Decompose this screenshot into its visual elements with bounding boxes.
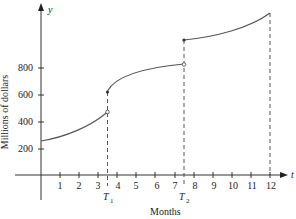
y-axis-title: Millions of dollars xyxy=(0,75,10,150)
x-tick-label: 4 xyxy=(116,180,121,191)
curve-segment-3 xyxy=(184,13,270,40)
x-tick-labels: 1 2 3 4 5 6 7 8 9 10 11 12 xyxy=(58,180,277,191)
chart-svg: y t 200 400 600 800 Millions of dollars xyxy=(0,0,296,219)
y-ticks: 200 400 600 800 xyxy=(18,62,44,154)
x-tick-label: 7 xyxy=(173,180,178,191)
T2-subscript: 2 xyxy=(186,197,190,205)
x-axis-title: Months xyxy=(150,206,181,217)
chart: y t 200 400 600 800 Millions of dollars xyxy=(0,0,296,219)
endpoints xyxy=(106,38,186,113)
x-tick-label: 10 xyxy=(228,180,238,191)
x-tick-label: 2 xyxy=(77,180,82,191)
x-tick-label: 5 xyxy=(134,180,139,191)
x-tick-label: 12 xyxy=(266,180,276,191)
T1-subscript: 1 xyxy=(110,197,114,205)
y-tick-label: 800 xyxy=(18,62,33,73)
filled-dot-icon xyxy=(182,38,185,41)
x-tick-label: 1 xyxy=(58,180,63,191)
y-axis-variable: y xyxy=(47,4,53,15)
filled-dot-icon xyxy=(106,90,109,93)
curve-segment-1 xyxy=(41,112,108,141)
open-circle-icon xyxy=(182,63,186,67)
y-tick-label: 400 xyxy=(18,116,33,127)
x-tick-label: 6 xyxy=(155,180,160,191)
T1-label: T xyxy=(103,191,110,202)
x-tick-label: 11 xyxy=(247,180,257,191)
x-tick-label: 8 xyxy=(193,180,198,191)
y-tick-label: 200 xyxy=(18,143,33,154)
curve-segment-2 xyxy=(108,64,185,91)
open-circle-icon xyxy=(106,110,110,114)
y-axis-arrow-icon xyxy=(38,3,44,11)
x-axis-variable: t xyxy=(291,169,294,180)
curves xyxy=(41,13,270,141)
x-tick-label: 3 xyxy=(96,180,101,191)
x-axis-arrow-icon xyxy=(280,172,288,178)
x-tick-label: 9 xyxy=(212,180,217,191)
axes: y t xyxy=(15,3,294,200)
T2-label: T xyxy=(179,191,186,202)
y-tick-label: 600 xyxy=(18,89,33,100)
